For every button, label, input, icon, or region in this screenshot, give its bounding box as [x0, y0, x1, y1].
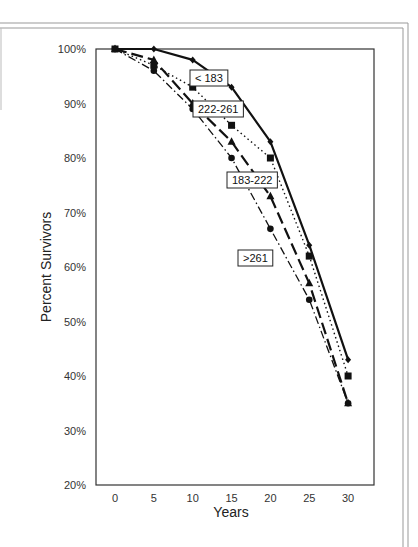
y-tick-label: 80% — [64, 152, 86, 164]
square-marker — [228, 122, 235, 129]
x-axis-title: Years — [213, 504, 248, 520]
y-axis-title: Percent Survivors — [38, 212, 54, 322]
x-tick-label: 15 — [225, 492, 237, 504]
square-marker — [306, 253, 313, 260]
series-labels: < 183222-261183-222>261 — [190, 70, 277, 266]
circle-marker — [267, 226, 274, 233]
series-lines — [111, 45, 352, 407]
y-tick-label: 20% — [64, 479, 86, 491]
square-marker — [345, 373, 352, 380]
x-tick-label: 5 — [151, 492, 157, 504]
y-tick-label: 50% — [64, 316, 86, 328]
series-square — [112, 46, 352, 380]
x-tick-label: 30 — [342, 492, 354, 504]
circle-marker — [228, 155, 235, 162]
circle-marker — [345, 400, 352, 407]
series-label: 222-261 — [198, 103, 238, 115]
x-tick-label: 20 — [264, 492, 276, 504]
x-tick-label: 10 — [187, 492, 199, 504]
circle-marker — [112, 46, 119, 53]
survival-chart: 100%90%80%70%60%50%40%30%20% 05101520253… — [0, 0, 418, 547]
y-tick-label: 100% — [58, 43, 86, 55]
y-tick-label: 40% — [64, 370, 86, 382]
series-circle — [112, 46, 352, 407]
y-tick-label: 90% — [64, 98, 86, 110]
series-label: < 183 — [195, 72, 223, 84]
diamond-marker — [306, 242, 312, 249]
series-triangle — [111, 45, 352, 407]
triangle-marker — [305, 279, 313, 287]
circle-marker — [306, 296, 313, 303]
y-axis-ticks: 100%90%80%70%60%50%40%30%20% — [58, 43, 86, 491]
y-tick-label: 30% — [64, 425, 86, 437]
square-marker — [267, 155, 274, 162]
series-label-box: 222-261 — [193, 101, 243, 117]
circle-marker — [151, 68, 158, 75]
x-tick-label: 25 — [303, 492, 315, 504]
series-diamond — [112, 46, 351, 364]
diamond-marker — [151, 46, 157, 53]
y-tick-label: 60% — [64, 261, 86, 273]
diamond-marker — [345, 356, 351, 363]
triangle-marker — [228, 137, 236, 145]
series-label: >261 — [243, 252, 268, 264]
series-label-box: < 183 — [190, 70, 228, 86]
series-label-box: 183-222 — [227, 172, 277, 188]
series-label-box: >261 — [238, 250, 273, 266]
series-label: 183-222 — [232, 174, 272, 186]
y-tick-label: 70% — [64, 207, 86, 219]
x-tick-label: 0 — [112, 492, 118, 504]
x-axis-ticks: 051015202530 — [112, 492, 354, 504]
